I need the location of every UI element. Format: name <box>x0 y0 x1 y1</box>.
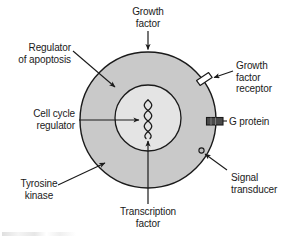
growth-factor-receptor-connector <box>214 71 233 78</box>
signal-transducer-icon <box>199 148 204 153</box>
label-regulator-of-apoptosis: Regulator of apoptosis <box>0 42 71 65</box>
signal-transducer-connector <box>205 154 227 170</box>
label-growth-factor: Growth factor <box>113 6 183 29</box>
label-growth-factor-receptor: Growth factor receptor <box>236 60 298 95</box>
label-g-protein: G protein <box>229 116 297 128</box>
g-protein-icon <box>207 118 224 126</box>
label-cell-cycle-regulator: Cell cycle regulator <box>2 108 75 131</box>
label-transcription-factor: Transcription factor <box>105 206 191 229</box>
label-tyrosine-kinase: Tyrosine kinase <box>6 178 72 201</box>
label-signal-transducer: Signal transducer <box>231 172 298 195</box>
diagram-canvas: Growth factor Regulator of apoptosis Cel… <box>0 0 298 236</box>
